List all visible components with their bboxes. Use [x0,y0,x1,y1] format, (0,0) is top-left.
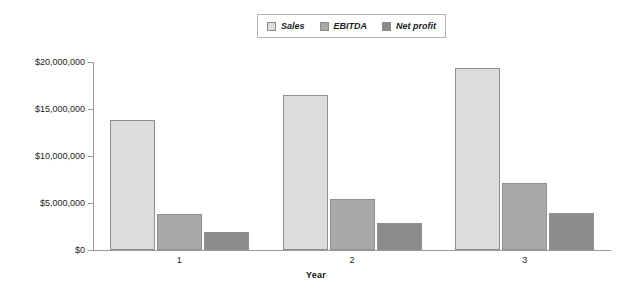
bar-net-profit-year-3 [549,213,594,250]
y-axis-tick-label: $0 [75,245,85,255]
bar-sales-year-2 [283,95,328,250]
y-axis-tick-mark [88,156,93,157]
bar-ebitda-year-3 [502,183,547,250]
bar-sales-year-3 [455,68,500,250]
x-axis-label-3: 3 [522,255,527,265]
x-axis-label-2: 2 [349,255,354,265]
y-axis-tick-mark [88,62,93,63]
y-axis-tick-mark [88,250,93,251]
y-axis-tick-mark [88,109,93,110]
y-axis-tick-label: $10,000,000 [35,151,85,161]
y-axis-tick-label: $15,000,000 [35,104,85,114]
y-axis-tick-label: $5,000,000 [40,198,85,208]
y-axis-line [93,62,94,251]
bar-ebitda-year-2 [330,199,375,250]
x-axis-title: Year [0,270,632,280]
y-axis-tick-mark [88,203,93,204]
x-axis-label-1: 1 [177,255,182,265]
bar-sales-year-1 [110,120,155,250]
plot-area: $0$5,000,000$10,000,000$15,000,000$20,00… [0,0,632,294]
bar-net-profit-year-2 [377,223,422,250]
x-axis-line [93,250,611,251]
bar-net-profit-year-1 [204,232,249,250]
bar-chart: Sales EBITDA Net profit $0$5,000,000$10,… [0,0,632,294]
bar-ebitda-year-1 [157,214,202,250]
y-axis-tick-label: $20,000,000 [35,57,85,67]
